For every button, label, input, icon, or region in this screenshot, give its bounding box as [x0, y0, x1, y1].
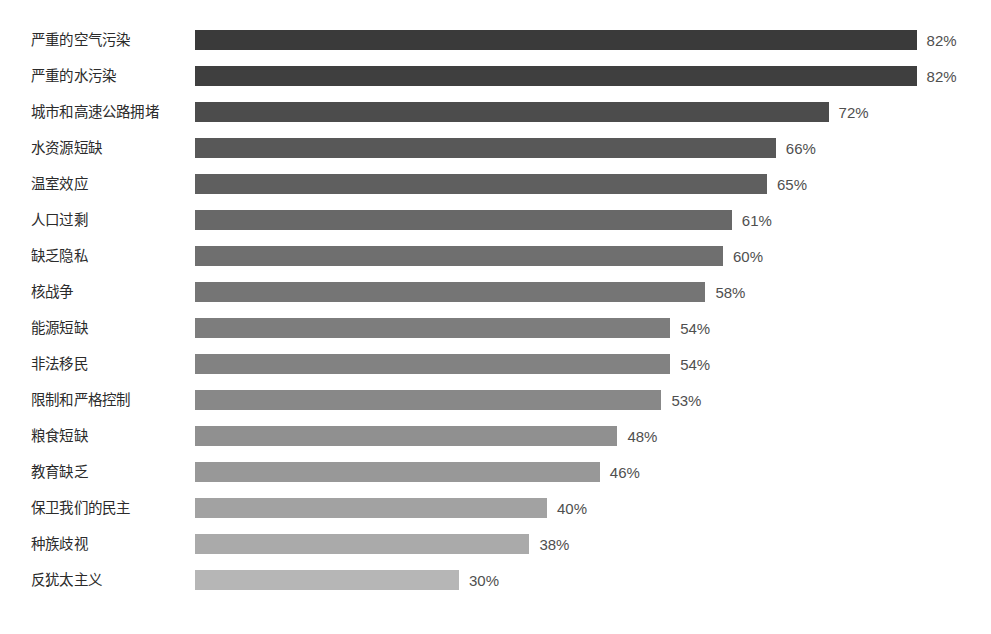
bar-fill [195, 282, 705, 302]
bar-fill [195, 426, 617, 446]
bar-value-label: 58% [715, 285, 745, 300]
bar-value-label: 61% [742, 213, 772, 228]
bar-row: 能源短缺54% [0, 318, 991, 338]
bar-fill [195, 390, 661, 410]
bar-value-label: 53% [671, 393, 701, 408]
bar-chart: 严重的空气污染82%严重的水污染82%城市和高速公路拥堵72%水资源短缺66%温… [0, 0, 991, 634]
bar-track: 40% [195, 498, 991, 518]
bar-value-label: 46% [610, 465, 640, 480]
bar-value-label: 82% [927, 33, 957, 48]
bar-fill [195, 498, 547, 518]
bar-track: 60% [195, 246, 991, 266]
bar-category-label: 教育缺乏 [31, 465, 88, 480]
bar-track: 53% [195, 390, 991, 410]
bar-row: 温室效应65% [0, 174, 991, 194]
bar-category-label: 粮食短缺 [31, 429, 88, 444]
bar-track: 30% [195, 570, 991, 590]
bar-row: 人口过剩61% [0, 210, 991, 230]
bar-category-label: 温室效应 [31, 177, 88, 192]
bar-category-label: 保卫我们的民主 [31, 501, 130, 516]
bar-value-label: 66% [786, 141, 816, 156]
bar-row: 核战争58% [0, 282, 991, 302]
bar-row: 严重的空气污染82% [0, 30, 991, 50]
bar-value-label: 40% [557, 501, 587, 516]
bar-track: 54% [195, 354, 991, 374]
bar-row: 限制和严格控制53% [0, 390, 991, 410]
bar-track: 72% [195, 102, 991, 122]
bar-value-label: 72% [839, 105, 869, 120]
bar-value-label: 65% [777, 177, 807, 192]
bar-category-label: 城市和高速公路拥堵 [31, 105, 159, 120]
bar-fill [195, 210, 732, 230]
bar-category-label: 人口过剩 [31, 213, 88, 228]
bar-value-label: 48% [627, 429, 657, 444]
bar-value-label: 54% [680, 357, 710, 372]
bar-track: 82% [195, 66, 991, 86]
bar-category-label: 严重的空气污染 [31, 33, 130, 48]
bar-row: 种族歧视38% [0, 534, 991, 554]
bar-category-label: 缺乏隐私 [31, 249, 88, 264]
bar-track: 66% [195, 138, 991, 158]
bar-fill [195, 318, 670, 338]
bar-fill [195, 570, 459, 590]
bar-fill [195, 138, 776, 158]
bar-row: 城市和高速公路拥堵72% [0, 102, 991, 122]
bar-fill [195, 66, 917, 86]
bar-fill [195, 246, 723, 266]
bar-value-label: 30% [469, 573, 499, 588]
bar-value-label: 54% [680, 321, 710, 336]
bar-category-label: 非法移民 [31, 357, 88, 372]
bar-value-label: 38% [539, 537, 569, 552]
bar-value-label: 60% [733, 249, 763, 264]
bar-row: 保卫我们的民主40% [0, 498, 991, 518]
bar-row: 水资源短缺66% [0, 138, 991, 158]
bar-category-label: 严重的水污染 [31, 69, 116, 84]
bar-fill [195, 462, 600, 482]
bar-category-label: 反犹太主义 [31, 573, 102, 588]
bar-value-label: 82% [927, 69, 957, 84]
bar-fill [195, 534, 529, 554]
bar-fill [195, 30, 917, 50]
bar-track: 61% [195, 210, 991, 230]
bar-row: 教育缺乏46% [0, 462, 991, 482]
bar-track: 38% [195, 534, 991, 554]
bar-track: 82% [195, 30, 991, 50]
bar-track: 58% [195, 282, 991, 302]
bar-fill [195, 174, 767, 194]
bar-track: 54% [195, 318, 991, 338]
bar-track: 46% [195, 462, 991, 482]
bar-track: 48% [195, 426, 991, 446]
bar-category-label: 限制和严格控制 [31, 393, 130, 408]
bar-fill [195, 354, 670, 374]
bar-category-label: 种族歧视 [31, 537, 88, 552]
bar-category-label: 水资源短缺 [31, 141, 102, 156]
bar-row: 严重的水污染82% [0, 66, 991, 86]
bar-category-label: 核战争 [31, 285, 74, 300]
bar-row: 非法移民54% [0, 354, 991, 374]
bar-track: 65% [195, 174, 991, 194]
bar-row: 粮食短缺48% [0, 426, 991, 446]
bar-row: 反犹太主义30% [0, 570, 991, 590]
bar-fill [195, 102, 829, 122]
bar-row: 缺乏隐私60% [0, 246, 991, 266]
bar-category-label: 能源短缺 [31, 321, 88, 336]
